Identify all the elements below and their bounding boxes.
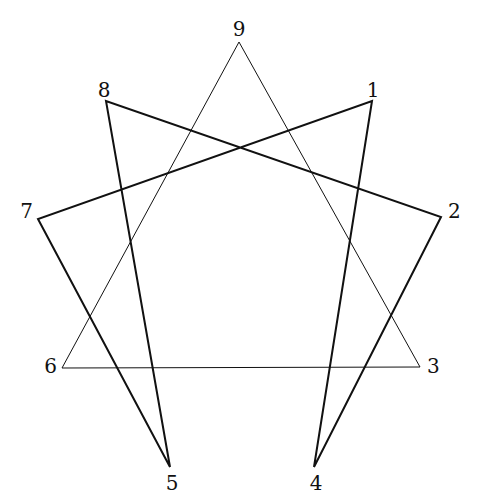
point-label-1: 1 [367,78,380,102]
point-label-9: 9 [233,17,246,41]
point-label-4: 4 [310,471,323,495]
point-label-7: 7 [20,199,33,223]
enneagram-diagram: 912345678 [0,0,484,497]
point-label-2: 2 [448,199,461,223]
hexad-1-4-2-8-5-7 [38,101,441,467]
point-label-6: 6 [44,354,57,378]
point-label-5: 5 [166,471,179,495]
point-label-8: 8 [98,78,111,102]
point-label-3: 3 [427,354,440,378]
point-labels: 912345678 [20,17,460,495]
